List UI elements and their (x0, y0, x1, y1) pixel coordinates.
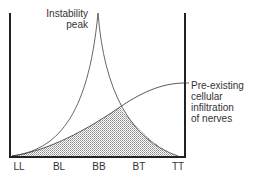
x-tick-tt: TT (172, 161, 184, 172)
instability-peak-label: Instability peak (40, 8, 88, 30)
x-tick-ll: LL (13, 161, 24, 172)
instability-peak-label-line2: peak (40, 19, 88, 30)
infiltration-label-line3: infiltration (191, 102, 244, 113)
x-tick-bl: BL (53, 161, 65, 172)
x-tick-bt: BT (133, 161, 146, 172)
infiltration-label-line1: Pre-existing (191, 80, 244, 91)
infiltration-label-line4: of nerves (191, 113, 244, 124)
x-tick-bb: BB (92, 161, 105, 172)
instability-peak-label-line1: Instability (40, 8, 88, 19)
infiltration-label-line2: cellular (191, 91, 244, 102)
infiltration-label: Pre-existing cellular infiltration of ne… (191, 80, 244, 124)
